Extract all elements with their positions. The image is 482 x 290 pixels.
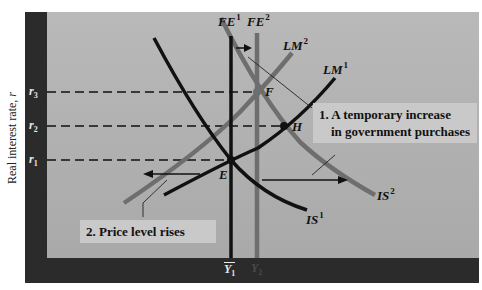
point-h-label: H bbox=[292, 119, 302, 135]
callout-1-line1: 1. A temporary increase bbox=[319, 106, 471, 123]
callout-government-purchases: 1. A temporary increase in government pu… bbox=[313, 103, 477, 143]
point-f-marker bbox=[253, 88, 261, 96]
lm2-label: LM2 bbox=[283, 36, 308, 54]
callout-1-line2: in government purchases bbox=[319, 123, 471, 140]
point-f-label: F bbox=[265, 84, 274, 100]
r1-tick-label: r1 bbox=[29, 152, 38, 168]
callout-2-text: 2. Price level rises bbox=[86, 223, 210, 240]
fe-shift-arrow bbox=[244, 44, 252, 52]
y1-tick-label: Y1 bbox=[224, 262, 235, 280]
fe2-label: FE2 bbox=[247, 12, 270, 30]
y2-tick-label: Y2 bbox=[251, 262, 262, 279]
callout-price-level: 2. Price level rises bbox=[80, 220, 216, 243]
r3-tick-label: r3 bbox=[29, 84, 38, 100]
point-e-marker bbox=[227, 156, 235, 164]
lm1-label: LM1 bbox=[323, 60, 348, 78]
point-h-marker bbox=[280, 122, 288, 130]
is1-label: IS1 bbox=[306, 210, 324, 228]
lm-shift-arrow bbox=[143, 170, 153, 178]
point-e-label: E bbox=[219, 167, 228, 183]
r2-tick-label: r2 bbox=[29, 118, 38, 134]
is-lm-fe-diagram bbox=[0, 0, 482, 290]
fe1-label: FE1 bbox=[218, 12, 241, 30]
is2-label: IS2 bbox=[377, 186, 395, 204]
